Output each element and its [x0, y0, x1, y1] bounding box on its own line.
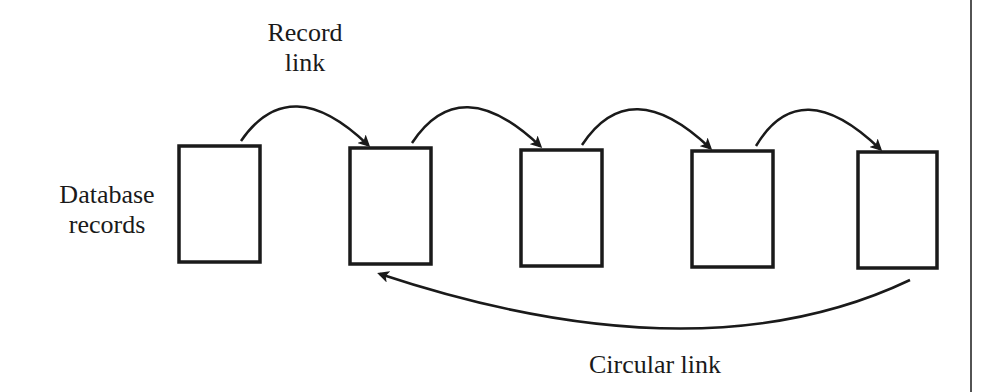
- record-link-arrow-3: [582, 109, 710, 148]
- record-box-5: [858, 152, 937, 268]
- circular-link-label: Circular link: [555, 350, 755, 380]
- record-box-1: [179, 146, 260, 262]
- record-box-3: [521, 150, 602, 266]
- record-link-label-line-2: link: [250, 48, 360, 78]
- database-records-label-line-1: Database: [42, 180, 172, 210]
- circular-link-arrow: [380, 274, 910, 329]
- record-box-4: [692, 151, 773, 267]
- record-link-arrow-2: [412, 107, 540, 146]
- database-records-label: Database records: [42, 180, 172, 240]
- record-link-arrow-4: [756, 110, 880, 149]
- database-records-label-line-2: records: [42, 210, 172, 240]
- record-link-label: Record link: [250, 18, 360, 78]
- record-link-arrow-1: [241, 106, 368, 145]
- record-box-2: [350, 148, 431, 264]
- record-link-label-line-1: Record: [250, 18, 360, 48]
